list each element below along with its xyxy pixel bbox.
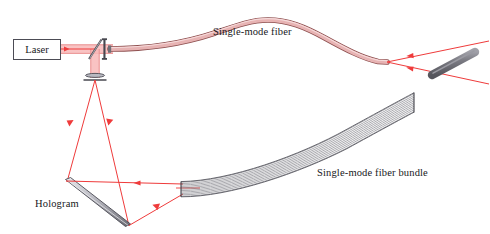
focusing-lens[interactable] bbox=[84, 73, 107, 80]
laser-label: Laser bbox=[13, 39, 61, 60]
single-mode-fiber-label: Single-mode fiber bbox=[213, 27, 292, 38]
fiber-bundle bbox=[181, 93, 414, 197]
sample-cylinder bbox=[432, 51, 475, 75]
fiber-bundle-label: Single-mode fiber bundle bbox=[317, 168, 428, 179]
beam-hologram-to-bundle bbox=[66, 180, 200, 225]
beam-fiber-tip-to-sample bbox=[387, 41, 489, 84]
hologram-label: Hologram bbox=[35, 199, 79, 210]
optical-setup-figure: Laser Single-mode fiber Single-mode fibe… bbox=[0, 0, 490, 234]
